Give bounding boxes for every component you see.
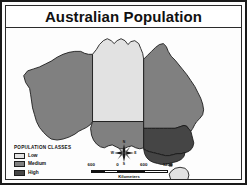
compass-label-north: N [123, 140, 126, 144]
scale-bar-graphic [88, 169, 170, 174]
compass-label-east: E [134, 151, 137, 155]
legend-item-medium[interactable]: Medium [14, 160, 92, 168]
scale-tick-1: 0 [116, 162, 118, 167]
region-western-australia[interactable] [24, 51, 93, 140]
scale-tick-labels: 600 0 600 1200 [88, 162, 170, 168]
scale-tick-0: 600 [88, 162, 95, 167]
legend-label-medium: Medium [28, 161, 46, 167]
legend-swatch-high [14, 170, 25, 176]
region-queensland[interactable] [144, 44, 204, 132]
scale-tick-3: 1200 [163, 162, 173, 167]
region-northern-territory[interactable] [93, 39, 144, 122]
region-tasmania[interactable] [169, 167, 189, 179]
page-title: Australian Population [45, 9, 202, 24]
legend-swatch-medium [14, 161, 25, 167]
legend-label-high: High [28, 170, 39, 176]
scale-tick-2: 600 [140, 162, 147, 167]
scale-segment-1 [91, 170, 104, 173]
scale-units-label: Kilometers [88, 174, 170, 180]
region-new-south-wales[interactable] [144, 125, 194, 155]
legend-label-low: Low [28, 153, 38, 159]
compass-label-west: W [111, 151, 115, 155]
legend-swatch-low [14, 153, 25, 159]
legend-title: POPULATION CLASSES [14, 144, 92, 151]
scale-segment-2 [104, 170, 117, 173]
legend-item-low[interactable]: Low [14, 152, 92, 160]
legend-item-high[interactable]: High [14, 169, 92, 177]
title-band: Australian Population [6, 6, 241, 28]
scale-segment-3 [118, 170, 144, 173]
legend: POPULATION CLASSES Low Medium High [14, 144, 92, 177]
scale-bar: 600 0 600 1200 Kilometers [88, 162, 170, 180]
scale-segment-4 [144, 170, 168, 173]
map-figure-frame: Australian Population POPULATION CLASSES [0, 0, 247, 185]
